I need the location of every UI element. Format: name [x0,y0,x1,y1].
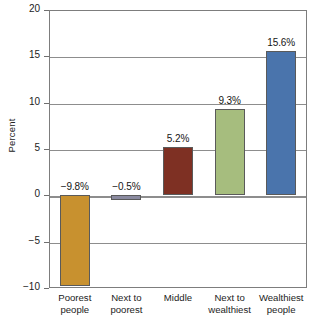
bar [111,195,141,200]
bar [215,109,245,195]
bar-value-label: 15.6% [251,37,311,48]
x-axis-label-line: Middle [149,292,207,304]
y-tick-mark [44,288,49,289]
x-axis-label-line: people [46,304,104,316]
bar-chart: Percent 20151050−5−10 −9.8%−0.5%5.2%9.3%… [0,0,318,326]
bar-value-label: −0.5% [96,181,156,192]
y-tick-label: −5 [0,235,40,246]
x-axis-label: Next towealthiest [201,292,259,315]
bar [163,147,193,195]
y-tick-mark [44,195,49,196]
bar [60,195,90,286]
y-tick-label: 20 [0,3,40,14]
bar-value-label: 5.2% [148,133,208,144]
y-tick-label: −10 [0,281,40,292]
y-tick-mark [44,149,49,150]
x-axis-label-line: Wealthiest [252,292,310,304]
y-tick-mark [44,10,49,11]
y-tick-label: 0 [0,188,40,199]
x-axis-label-line: wealthiest [201,304,259,316]
x-axis-label-line: people [252,304,310,316]
x-axis-label: Middle [149,292,207,304]
y-tick-mark [44,242,49,243]
x-axis-label-line: Next to [201,292,259,304]
x-axis-label: Wealthiestpeople [252,292,310,315]
y-tick-label: 5 [0,142,40,153]
x-axis-label: Next topoorest [97,292,155,315]
y-tick-label: 15 [0,49,40,60]
bar-value-label: 9.3% [200,95,260,106]
bar [266,51,296,196]
y-tick-mark [44,103,49,104]
y-tick-mark [44,56,49,57]
y-tick-label: 10 [0,96,40,107]
x-axis-label-line: poorest [97,304,155,316]
y-axis-title: Percent [6,101,17,171]
x-axis-label-line: Next to [97,292,155,304]
x-axis-label-line: Poorest [46,292,104,304]
x-axis-label: Poorestpeople [46,292,104,315]
